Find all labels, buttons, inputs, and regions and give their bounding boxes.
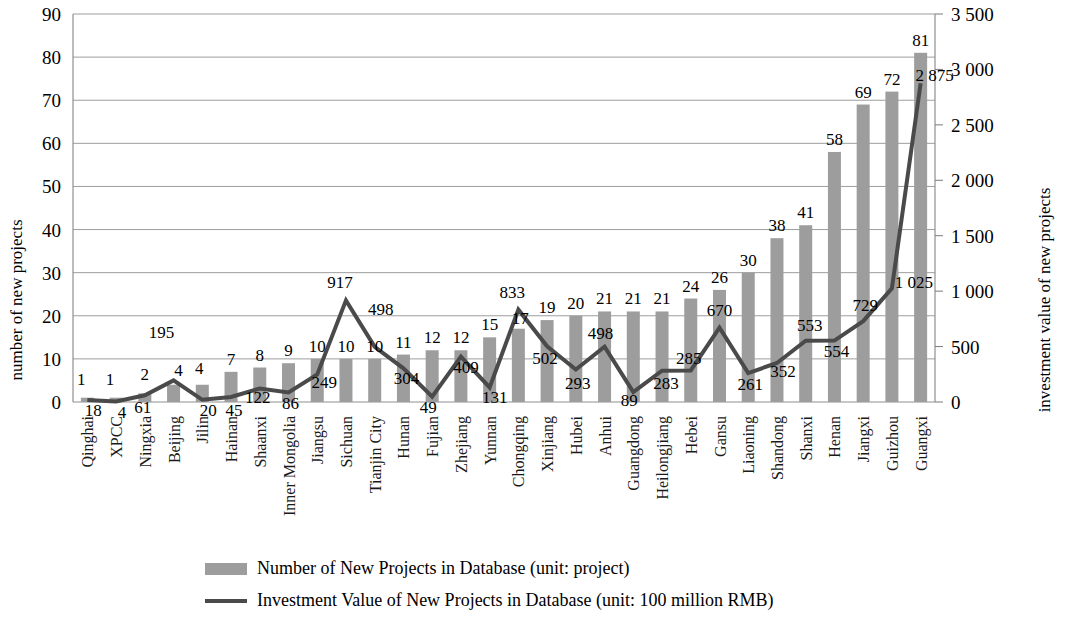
bar-value-label: 12 bbox=[452, 328, 469, 347]
bar bbox=[368, 359, 381, 402]
category-label: Jiangxi bbox=[855, 415, 873, 462]
bar bbox=[167, 385, 180, 402]
y-axis-left-tick-label: 20 bbox=[42, 306, 61, 327]
category-label: Anhui bbox=[597, 415, 614, 456]
bar bbox=[828, 152, 841, 402]
line-value-label: 502 bbox=[532, 349, 558, 368]
line-value-label: 249 bbox=[311, 373, 337, 392]
category-label: Fujian bbox=[424, 416, 442, 457]
y-axis-left-title: number of new projects bbox=[7, 220, 26, 381]
category-label: Heilongjiang bbox=[654, 416, 672, 500]
category-label: Hainan bbox=[223, 416, 240, 462]
chart-legend: Number of New Projects in Database (unit… bbox=[205, 558, 774, 611]
category-label: Tianjin City bbox=[367, 416, 385, 493]
line-value-label: 61 bbox=[134, 398, 151, 417]
chart-container: 0102030405060708090 05001 0001 5002 0002… bbox=[0, 0, 1067, 644]
bar-value-label: 7 bbox=[227, 350, 236, 369]
bar-value-label: 69 bbox=[855, 83, 872, 102]
line-value-label: 195 bbox=[149, 323, 175, 342]
category-label: Sichuan bbox=[338, 416, 355, 468]
bar-value-label: 19 bbox=[539, 298, 556, 317]
y-axis-right-tick-label: 500 bbox=[951, 337, 980, 358]
category-label: Henan bbox=[826, 416, 843, 458]
y-axis-right-tick-label: 3 500 bbox=[951, 4, 994, 25]
y-axis-left-tick-label: 90 bbox=[42, 4, 61, 25]
y-axis-left-tick-label: 80 bbox=[42, 47, 61, 68]
line-value-label: 86 bbox=[282, 394, 299, 413]
bar-value-label: 26 bbox=[711, 268, 728, 287]
bar bbox=[857, 105, 870, 402]
y-axis-left-tick-label: 50 bbox=[42, 176, 61, 197]
line-value-label: 729 bbox=[852, 296, 878, 315]
bar-value-label: 58 bbox=[826, 130, 843, 149]
bar-value-label: 4 bbox=[174, 361, 183, 380]
bar-value-label: 11 bbox=[395, 333, 411, 352]
line-value-label: 2 875 bbox=[916, 66, 954, 85]
line-value-label: 498 bbox=[588, 324, 614, 343]
line-value-label: 285 bbox=[676, 349, 702, 368]
line-value-label: 49 bbox=[420, 398, 437, 417]
category-labels-group: QinghaiXPCCNingxiaBeijingJilinHainanShaa… bbox=[79, 415, 930, 516]
line-value-label: 409 bbox=[453, 358, 479, 377]
combo-chart: 0102030405060708090 05001 0001 5002 0002… bbox=[0, 0, 1067, 644]
category-label: Inner Mongolia bbox=[281, 416, 299, 516]
line-value-label: 261 bbox=[737, 375, 763, 394]
y-axis-right-tick-label: 1 000 bbox=[951, 281, 994, 302]
investment-value-line bbox=[87, 83, 920, 401]
bar-value-label: 4 bbox=[195, 359, 204, 378]
y-axis-left-tick-label: 30 bbox=[42, 263, 61, 284]
category-label: Jilin bbox=[194, 416, 211, 444]
line-value-label: 670 bbox=[707, 301, 733, 320]
bar-value-label: 21 bbox=[654, 289, 671, 308]
bar-value-label: 17 bbox=[512, 309, 530, 328]
category-label: Chongqing bbox=[510, 416, 528, 487]
y-axis-right-tick-label: 1 500 bbox=[951, 226, 994, 247]
bar-value-label: 10 bbox=[309, 337, 326, 356]
category-label: Xinjiang bbox=[539, 416, 557, 472]
y-axis-right-tick-label: 3 000 bbox=[951, 59, 994, 80]
category-label: Gansu bbox=[712, 416, 729, 457]
bar-value-label: 72 bbox=[883, 70, 900, 89]
bar-value-label: 2 bbox=[141, 365, 150, 384]
line-value-label: 554 bbox=[824, 342, 850, 361]
y-axis-left-tick-label: 60 bbox=[42, 133, 61, 154]
category-label: Shaanxi bbox=[252, 415, 269, 467]
category-label: Jiangsu bbox=[309, 416, 327, 464]
category-label: Beijing bbox=[166, 416, 184, 463]
category-label: Zhejiang bbox=[453, 416, 471, 473]
legend-label: Investment Value of New Projects in Data… bbox=[257, 590, 774, 611]
bar-value-label: 1 bbox=[106, 370, 115, 389]
category-label: Guizhou bbox=[884, 416, 901, 471]
bar-value-label: 10 bbox=[366, 337, 383, 356]
line-series-group bbox=[87, 83, 920, 401]
category-label: Shandong bbox=[769, 416, 787, 480]
line-value-label: 122 bbox=[245, 388, 271, 407]
bar-value-label: 20 bbox=[567, 294, 584, 313]
line-value-label: 352 bbox=[770, 362, 796, 381]
category-label: Hubei bbox=[568, 415, 585, 455]
line-value-label: 498 bbox=[368, 300, 394, 319]
category-label: Ningxia bbox=[137, 416, 155, 468]
y-axis-left-tick-label: 0 bbox=[52, 392, 62, 413]
category-label: Guangxi bbox=[913, 415, 931, 471]
bar-value-label: 41 bbox=[797, 203, 814, 222]
line-value-label: 283 bbox=[653, 374, 679, 393]
bar bbox=[339, 359, 352, 402]
bar-value-label: 9 bbox=[284, 341, 293, 360]
category-label: Hunan bbox=[395, 416, 412, 459]
bar-value-label: 15 bbox=[481, 315, 498, 334]
bar-value-label: 30 bbox=[740, 251, 757, 270]
bar-value-label: 12 bbox=[424, 328, 441, 347]
category-label: Hebei bbox=[683, 415, 700, 454]
legend-bar-swatch bbox=[205, 563, 247, 575]
y-axis-right-tick-label: 2 000 bbox=[951, 170, 994, 191]
bar-value-label: 21 bbox=[596, 289, 613, 308]
line-value-label: 304 bbox=[394, 369, 420, 388]
y-axis-left-tick-label: 40 bbox=[42, 220, 61, 241]
bar-value-label: 8 bbox=[256, 346, 265, 365]
line-value-label: 553 bbox=[797, 316, 823, 335]
line-value-label: 1 025 bbox=[895, 273, 933, 292]
bar-value-label: 24 bbox=[682, 277, 700, 296]
line-value-label: 833 bbox=[500, 283, 526, 302]
category-label: Yunnan bbox=[482, 416, 499, 465]
